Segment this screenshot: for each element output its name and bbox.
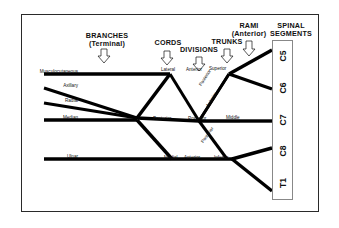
header-branches-line2: (Terminal) xyxy=(77,40,137,48)
label-radial: Radial xyxy=(26,98,78,103)
label-posterior-cord: Posterior xyxy=(153,116,171,121)
label-anterior-division-lower: Anterior xyxy=(184,155,200,160)
label-ulnar: Ulnar xyxy=(26,154,78,159)
brachial-plexus-figure: BRANCHES (Terminal) CORDS DIVISIONS TRUN… xyxy=(0,0,339,228)
label-posterior-division-middle: Posterior xyxy=(188,116,206,121)
header-spinal-segments: SPINAL SEGMENTS xyxy=(265,22,317,39)
header-divisions: DIVISIONS xyxy=(175,46,223,54)
header-divisions-line1: DIVISIONS xyxy=(175,46,223,54)
header-trunks: TRUNKS xyxy=(207,38,247,46)
segment-c8: C8 xyxy=(278,141,288,162)
label-axillary: Axillary xyxy=(26,83,78,88)
label-middle-trunk: Middle xyxy=(226,115,240,120)
segment-c5: C5 xyxy=(278,46,288,67)
segment-t1: T1 xyxy=(278,173,288,194)
segment-c6: C6 xyxy=(278,78,288,99)
header-trunks-line1: TRUNKS xyxy=(207,38,247,46)
label-superior-trunk: Superior xyxy=(209,66,226,71)
segment-c7: C7 xyxy=(278,110,288,131)
arrow-branches-icon xyxy=(98,49,110,63)
label-musculocutaneous: Musculocutaneous xyxy=(26,69,78,74)
label-inferior-trunk: Inferior xyxy=(214,155,228,160)
label-medial-cord: Medial xyxy=(164,155,178,160)
label-median: Median xyxy=(26,115,78,120)
header-spinal-line2: SEGMENTS xyxy=(265,30,317,38)
header-branches: BRANCHES (Terminal) xyxy=(77,32,137,49)
label-lateral-cord: Lateral xyxy=(161,67,175,72)
arrow-cords-icon xyxy=(161,51,173,65)
label-anterior-division-upper: Anterior xyxy=(186,67,202,72)
